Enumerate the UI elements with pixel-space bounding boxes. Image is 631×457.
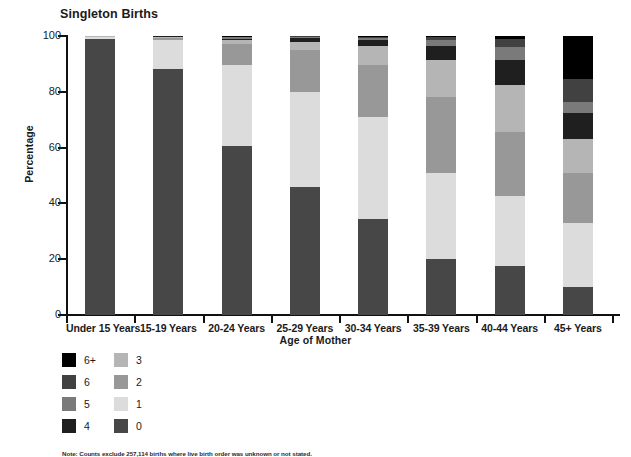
legend-swatch-icon [62,419,76,433]
bar-segment-parity-3[interactable] [290,42,320,50]
bar-segment-parity-2[interactable] [495,132,525,196]
bar-segment-parity-2[interactable] [290,50,320,92]
bar-segment-parity-0[interactable] [495,266,525,315]
y-tick-label: 20 [27,252,61,264]
bar-35-39-years[interactable] [426,36,456,315]
bar-segment-parity-5[interactable] [495,47,525,60]
bar-segment-parity-3[interactable] [358,46,388,66]
x-tick-label-25-29-years: 25-29 Years [271,322,339,334]
bar-segment-parity-1[interactable] [153,40,183,69]
legend-label: 5 [84,398,90,410]
chart-footnote: Note: Counts exclude 257,114 births wher… [62,450,622,457]
chart-title: Singleton Births [60,7,158,21]
bar-segment-parity-3[interactable] [426,60,456,98]
bar-segment-parity-4[interactable] [563,113,593,140]
bar-20-24-years[interactable] [222,36,252,315]
bar-segment-parity-4[interactable] [426,46,456,60]
legend-item-1[interactable]: 1 [114,393,142,415]
x-axis-label: Age of Mother [0,334,631,346]
bar-segment-parity-0[interactable] [222,146,252,315]
legend-swatch-icon [62,397,76,411]
legend-item-3[interactable]: 3 [114,349,142,371]
legend-swatch-icon [114,397,128,411]
legend-column-2: 3210 [114,349,142,437]
y-tick-label: 100 [27,29,61,41]
bar-segment-parity-0[interactable] [358,219,388,315]
x-tick-label-45-years: 45+ Years [544,322,612,334]
legend-label: 6+ [84,354,96,366]
legend-swatch-icon [62,353,76,367]
x-tick-label-15-19-years: 15-19 Years [134,322,202,334]
legend-label: 1 [136,398,142,410]
y-tick-label: 60 [27,141,61,153]
legend-item-6plus[interactable]: 6+ [62,349,96,371]
legend-swatch-icon [62,375,76,389]
plot-area: 020406080100 [66,36,612,315]
y-axis-label: Percentage [23,104,35,204]
bar-segment-parity-6[interactable] [563,79,593,101]
bar-segment-parity-0[interactable] [85,39,115,315]
legend-label: 2 [136,376,142,388]
bar-segment-parity-0[interactable] [563,287,593,315]
x-tick-mark [612,316,614,323]
bar-segment-parity-0[interactable] [426,259,456,315]
bar-segment-parity-1[interactable] [358,117,388,219]
bar-30-34-years[interactable] [358,36,388,315]
x-tick-label-35-39-years: 35-39 Years [407,322,475,334]
y-tick-label: 40 [27,196,61,208]
bar-40-44-years[interactable] [495,36,525,315]
legend-column-1: 6+654 [62,349,96,437]
bar-segment-parity-3[interactable] [495,85,525,132]
legend-label: 6 [84,376,90,388]
bar-segment-parity-4[interactable] [495,60,525,85]
bar-segment-parity-6+[interactable] [563,36,593,79]
legend-item-0[interactable]: 0 [114,415,142,437]
bar-under-15-years[interactable] [85,36,115,315]
bar-45-years[interactable] [563,36,593,315]
bar-segment-parity-2[interactable] [358,65,388,117]
bar-segment-parity-1[interactable] [495,196,525,266]
bar-segment-parity-5[interactable] [563,102,593,113]
legend-item-4[interactable]: 4 [62,415,96,437]
bar-segment-parity-1[interactable] [290,92,320,187]
legend-item-6[interactable]: 6 [62,371,96,393]
legend-swatch-icon [114,419,128,433]
bar-segment-parity-2[interactable] [426,97,456,172]
legend-label: 4 [84,420,90,432]
bar-segment-parity-6[interactable] [495,39,525,47]
legend-label: 3 [136,354,142,366]
y-tick-label: 80 [27,85,61,97]
x-tick-label-30-34-years: 30-34 Years [339,322,407,334]
bar-segment-parity-2[interactable] [222,44,252,65]
bar-segment-parity-1[interactable] [563,223,593,287]
bar-15-19-years[interactable] [153,36,183,315]
bar-segment-parity-2[interactable] [563,173,593,223]
bar-segment-parity-3[interactable] [563,139,593,172]
legend-item-2[interactable]: 2 [114,371,142,393]
bar-segment-parity-1[interactable] [222,65,252,146]
bar-segment-parity-0[interactable] [290,187,320,315]
bar-25-29-years[interactable] [290,36,320,315]
bar-segment-parity-1[interactable] [426,173,456,259]
x-tick-label-20-24-years: 20-24 Years [203,322,271,334]
legend-swatch-icon [114,375,128,389]
bar-segment-parity-0[interactable] [153,69,183,315]
legend-swatch-icon [114,353,128,367]
y-tick-label: 0 [27,308,61,320]
chart-figure: Singleton Births Percentage 020406080100… [0,0,631,457]
legend-label: 0 [136,420,142,432]
x-tick-label-under-15-years: Under 15 Years [66,322,134,334]
legend-item-5[interactable]: 5 [62,393,96,415]
x-tick-label-40-44-years: 40-44 Years [476,322,544,334]
